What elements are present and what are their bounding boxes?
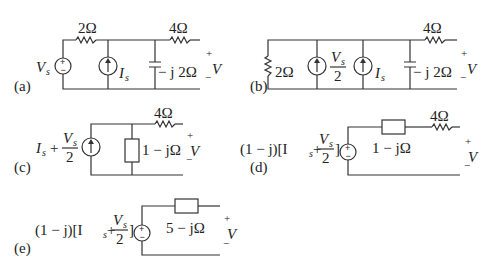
resistor-4ohm-label: 4Ω xyxy=(423,20,442,36)
panel-d: + − (1 − j)[I s + V s 2 ] 1 − jΩ 4Ω + V … xyxy=(240,108,479,176)
source-plus: + xyxy=(50,140,58,156)
panel-c-label: (c) xyxy=(14,159,31,176)
is-label: I xyxy=(374,65,381,81)
output-v: V xyxy=(467,61,478,77)
impedance-label: 1 − jΩ xyxy=(142,142,181,158)
output-plus: + xyxy=(465,135,471,147)
wire xyxy=(63,40,76,58)
resistor-4ohm-label: 4Ω xyxy=(169,20,188,36)
frac-den: 2 xyxy=(334,68,342,84)
resistor-4ohm xyxy=(155,121,175,127)
vs-label-sub: s xyxy=(46,66,50,77)
panel-a: 2Ω + − V s I s − j 2Ω 4Ω + V − (a) xyxy=(14,20,223,95)
resistor-4ohm-label: 4Ω xyxy=(430,108,449,124)
wire xyxy=(91,156,183,175)
is-label-sub: s xyxy=(125,72,129,83)
resistor-2ohm xyxy=(76,37,96,43)
panel-d-label: (d) xyxy=(250,159,268,176)
panel-e-label: (e) xyxy=(14,240,31,257)
wire xyxy=(142,241,220,255)
capacitor-label: − j 2Ω xyxy=(158,64,197,80)
minus-sign: − xyxy=(140,232,145,242)
panel-b: 2Ω V s 2 I s − j 2Ω 4Ω + V − (b) xyxy=(250,20,478,95)
resistor-2ohm-label: 2Ω xyxy=(78,20,97,36)
wire xyxy=(91,124,155,138)
frac-num-sub: s xyxy=(341,56,345,67)
impedance-label: 5 − jΩ xyxy=(166,220,205,236)
output-minus: − xyxy=(460,71,466,83)
arrow-head-icon xyxy=(314,58,320,63)
frac-num-sub: s xyxy=(329,138,333,149)
arrow-head-icon xyxy=(360,58,366,63)
arrow-head-icon xyxy=(105,58,111,63)
source-expr-right: ] xyxy=(335,141,340,157)
source-prefix: I xyxy=(35,140,42,156)
panel-c: I s + V s 2 1 − jΩ 4Ω + V − (c) xyxy=(14,105,201,176)
output-minus: − xyxy=(205,71,211,83)
impedance-box xyxy=(175,199,198,213)
source-expr-left: (1 − j)[I xyxy=(240,141,288,158)
arrow-head-icon xyxy=(88,139,94,144)
output-plus: + xyxy=(224,212,230,224)
resistor-4ohm xyxy=(170,37,190,43)
frac-num-sub: s xyxy=(123,219,127,230)
minus-sign: − xyxy=(346,151,351,161)
frac-den: 2 xyxy=(322,150,330,166)
source-expr-right: ] xyxy=(129,222,134,238)
output-plus: + xyxy=(187,129,193,141)
impedance-box xyxy=(125,139,139,162)
output-v: V xyxy=(212,61,223,77)
output-minus: − xyxy=(223,237,229,249)
panel-b-label: (b) xyxy=(250,78,268,95)
source-prefix-sub: s xyxy=(42,147,46,158)
is-label-sub: s xyxy=(381,72,385,83)
frac-num-sub: s xyxy=(73,137,77,148)
circuit-figure: 2Ω + − V s I s − j 2Ω 4Ω + V − (a) 2Ω xyxy=(0,0,491,268)
wire xyxy=(268,40,425,56)
frac-den: 2 xyxy=(66,149,74,165)
capacitor-label: − j 2Ω xyxy=(413,64,452,80)
minus-sign: − xyxy=(61,65,66,75)
resistor-2ohm-label: 2Ω xyxy=(275,64,294,80)
impedance-box xyxy=(382,120,405,134)
frac-den: 2 xyxy=(116,231,124,247)
wire xyxy=(348,160,460,175)
output-plus: + xyxy=(461,47,467,59)
output-minus: − xyxy=(464,159,470,171)
source-expr-left: (1 − j)[I xyxy=(35,222,83,239)
resistor-4ohm-label: 4Ω xyxy=(154,105,173,121)
is-label: I xyxy=(118,65,125,81)
panel-e: + − (1 − j)[I s + V s 2 ] 5 − jΩ + V − (… xyxy=(14,199,238,257)
panel-a-label: (a) xyxy=(14,78,31,95)
impedance-label: 1 − jΩ xyxy=(372,140,411,156)
resistor-4ohm xyxy=(432,124,452,130)
resistor-4ohm xyxy=(425,37,445,43)
resistor-2ohm xyxy=(265,56,271,76)
output-minus: − xyxy=(186,153,192,165)
output-plus: + xyxy=(206,47,212,59)
